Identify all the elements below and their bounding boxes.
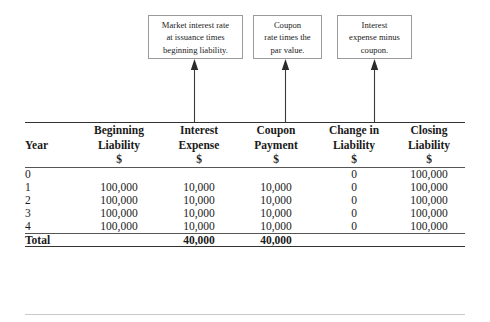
- table-footer: Total 40,000 40,000: [25, 233, 465, 246]
- header-currency-symbol: $: [315, 152, 393, 167]
- cell-year: 1: [25, 181, 77, 194]
- cell-interest-expense: 10,000: [161, 194, 237, 207]
- cell-coupon-payment: 10,000: [237, 207, 315, 220]
- page-divider: [25, 314, 465, 315]
- table-header-row: Year Beginning Liability $ Interest Expe…: [25, 123, 465, 168]
- header-currency-symbol: $: [237, 152, 315, 167]
- header-currency-symbol: $: [77, 152, 161, 167]
- header-line: Year: [25, 138, 77, 153]
- cell-year: 3: [25, 207, 77, 220]
- callout-market-interest-rate: Market interest rate at issuance times b…: [148, 15, 243, 59]
- cell-change-in-liability: 0: [315, 181, 393, 194]
- header-line: Interest: [161, 123, 237, 138]
- header-line: Liability: [393, 138, 465, 153]
- header-line: Liability: [77, 138, 161, 153]
- callout-market-interest-rate-text: Market interest rate at issuance times b…: [162, 19, 229, 56]
- column-header-coupon-payment: Coupon Payment $: [237, 123, 315, 168]
- table-row: 0 0 100,000: [25, 168, 465, 181]
- callout-line: Interest: [349, 19, 400, 31]
- header-currency-symbol: $: [161, 152, 237, 167]
- table-row: 1 100,000 10,000 10,000 0 100,000: [25, 181, 465, 194]
- cell-change-in-liability: 0: [315, 194, 393, 207]
- column-header-beginning-liability: Beginning Liability $: [77, 123, 161, 168]
- cell-beginning-liability: [77, 168, 161, 181]
- cell-total-beginning-liability: [77, 233, 161, 246]
- cell-total-coupon-payment: 40,000: [237, 233, 315, 246]
- callout-line: Market interest rate: [162, 19, 229, 31]
- header-currency-symbol: $: [393, 152, 465, 167]
- callout-coupon-rate: Coupon rate times the par value.: [253, 15, 322, 59]
- cell-total-interest-expense: 40,000: [161, 233, 237, 246]
- column-header-year: Year: [25, 123, 77, 168]
- callout-line: at issuance times: [162, 31, 229, 43]
- table-total-row: Total 40,000 40,000: [25, 233, 465, 246]
- cell-total-closing-liability: [393, 233, 465, 246]
- cell-interest-expense: 10,000: [161, 207, 237, 220]
- callout-line: coupon.: [349, 44, 400, 56]
- header-line: Closing: [393, 123, 465, 138]
- cell-interest-expense: 10,000: [161, 181, 237, 194]
- cell-year: 2: [25, 194, 77, 207]
- cell-beginning-liability: 100,000: [77, 194, 161, 207]
- cell-coupon-payment: [237, 168, 315, 181]
- table-header: Year Beginning Liability $ Interest Expe…: [25, 123, 465, 168]
- cell-closing-liability: 100,000: [393, 207, 465, 220]
- header-line: Expense: [161, 138, 237, 153]
- cell-beginning-liability: 100,000: [77, 220, 161, 233]
- cell-coupon-payment: 10,000: [237, 220, 315, 233]
- table-row: 3 100,000 10,000 10,000 0 100,000: [25, 207, 465, 220]
- header-line: Payment: [237, 138, 315, 153]
- cell-change-in-liability: 0: [315, 207, 393, 220]
- cell-coupon-payment: 10,000: [237, 181, 315, 194]
- header-line: Liability: [315, 138, 393, 153]
- header-line: Beginning: [77, 123, 161, 138]
- callout-line: Coupon: [264, 19, 310, 31]
- cell-interest-expense: [161, 168, 237, 181]
- cell-interest-expense: 10,000: [161, 220, 237, 233]
- cell-change-in-liability: 0: [315, 220, 393, 233]
- cell-total-label: Total: [25, 233, 77, 246]
- cell-change-in-liability: 0: [315, 168, 393, 181]
- cell-closing-liability: 100,000: [393, 181, 465, 194]
- cell-beginning-liability: 100,000: [77, 207, 161, 220]
- table-row: 4 100,000 10,000 10,000 0 100,000: [25, 220, 465, 233]
- header-line: Change in: [315, 123, 393, 138]
- cell-year: 4: [25, 220, 77, 233]
- column-header-closing-liability: Closing Liability $: [393, 123, 465, 168]
- arrow-up-icon-interest-expense: [189, 59, 200, 123]
- callout-line: par value.: [264, 44, 310, 56]
- column-header-change-in-liability: Change in Liability $: [315, 123, 393, 168]
- cell-closing-liability: 100,000: [393, 194, 465, 207]
- table-row: 2 100,000 10,000 10,000 0 100,000: [25, 194, 465, 207]
- callout-line: expense minus: [349, 31, 400, 43]
- callout-coupon-rate-text: Coupon rate times the par value.: [264, 19, 310, 56]
- callout-interest-expense-text: Interest expense minus coupon.: [349, 19, 400, 56]
- column-header-interest-expense: Interest Expense $: [161, 123, 237, 168]
- arrow-up-icon-change-in-liability: [369, 59, 380, 123]
- callout-interest-expense: Interest expense minus coupon.: [337, 15, 412, 59]
- bond-amortization-table: Year Beginning Liability $ Interest Expe…: [25, 122, 465, 247]
- cell-beginning-liability: 100,000: [77, 181, 161, 194]
- header-line: Coupon: [237, 123, 315, 138]
- cell-closing-liability: 100,000: [393, 220, 465, 233]
- arrow-up-icon-coupon-payment: [280, 59, 291, 123]
- cell-total-change-in-liability: [315, 233, 393, 246]
- callout-line: beginning liability.: [162, 44, 229, 56]
- cell-closing-liability: 100,000: [393, 168, 465, 181]
- cell-year: 0: [25, 168, 77, 181]
- callout-line: rate times the: [264, 31, 310, 43]
- cell-coupon-payment: 10,000: [237, 194, 315, 207]
- table-body: 0 0 100,000 1 100,000 10,000 10,000 0 10…: [25, 168, 465, 233]
